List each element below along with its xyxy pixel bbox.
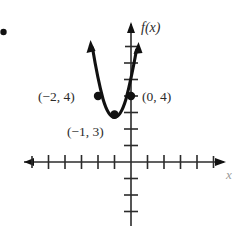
curve-arrow-left-icon xyxy=(87,40,96,53)
data-point-left xyxy=(94,92,102,100)
x-axis-arrow-right-icon xyxy=(215,158,226,166)
label-point-vertex: (−1, 3) xyxy=(67,124,104,139)
label-x-axis: x xyxy=(225,167,232,182)
label-point-right: (0, 4) xyxy=(142,89,171,104)
curve-arrow-right-icon xyxy=(134,42,143,54)
data-point-vertex xyxy=(110,110,118,118)
label-point-left: (−2, 4) xyxy=(38,89,75,104)
parabola-path xyxy=(93,48,137,118)
y-axis-arrow-up-icon xyxy=(127,22,135,33)
data-point-right xyxy=(127,92,135,100)
label-y-axis: f(x) xyxy=(141,20,161,36)
x-axis xyxy=(24,155,226,169)
graph-figure: (−2, 4) (−1, 3) (0, 4) f(x) x xyxy=(0,0,237,230)
coordinate-plane-svg: (−2, 4) (−1, 3) (0, 4) f(x) x xyxy=(0,0,237,230)
corner-bullet-icon xyxy=(0,29,6,35)
